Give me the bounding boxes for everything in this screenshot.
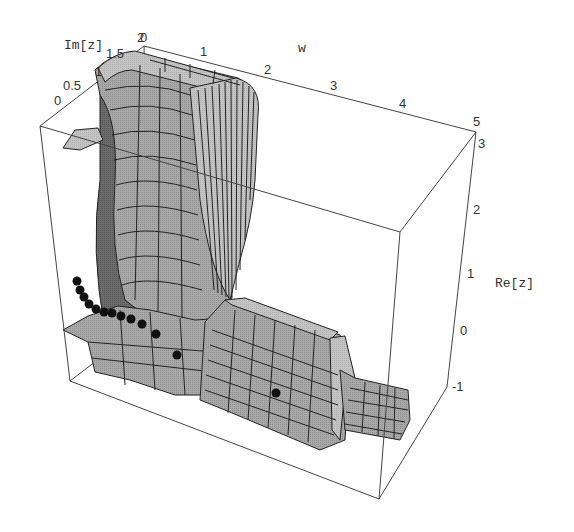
svg-text:3: 3 xyxy=(478,136,485,151)
surface-plot-3d: w 0 1 2 3 4 5 Im[z] 0 0.5 1 1.5 2 Re[z] … xyxy=(0,0,574,532)
svg-text:2: 2 xyxy=(264,62,271,77)
axis-re: Re[z] 3 2 1 0 -1 xyxy=(452,136,534,394)
svg-text:0.5: 0.5 xyxy=(63,78,81,93)
svg-text:5: 5 xyxy=(473,114,480,129)
svg-text:1.5: 1.5 xyxy=(106,46,124,61)
w-axis-label: w xyxy=(298,41,306,56)
surface-tube xyxy=(200,298,410,450)
svg-text:0: 0 xyxy=(460,323,467,338)
svg-text:4: 4 xyxy=(399,96,406,111)
svg-text:1: 1 xyxy=(467,266,474,281)
svg-text:2: 2 xyxy=(137,30,144,45)
svg-text:3: 3 xyxy=(330,78,337,93)
im-axis-label: Im[z] xyxy=(64,38,103,53)
re-axis-label: Re[z] xyxy=(495,276,534,291)
svg-text:0: 0 xyxy=(54,93,61,108)
svg-text:1: 1 xyxy=(95,64,102,79)
svg-text:1: 1 xyxy=(200,44,207,59)
svg-text:2: 2 xyxy=(473,202,480,217)
svg-text:-1: -1 xyxy=(452,379,464,394)
